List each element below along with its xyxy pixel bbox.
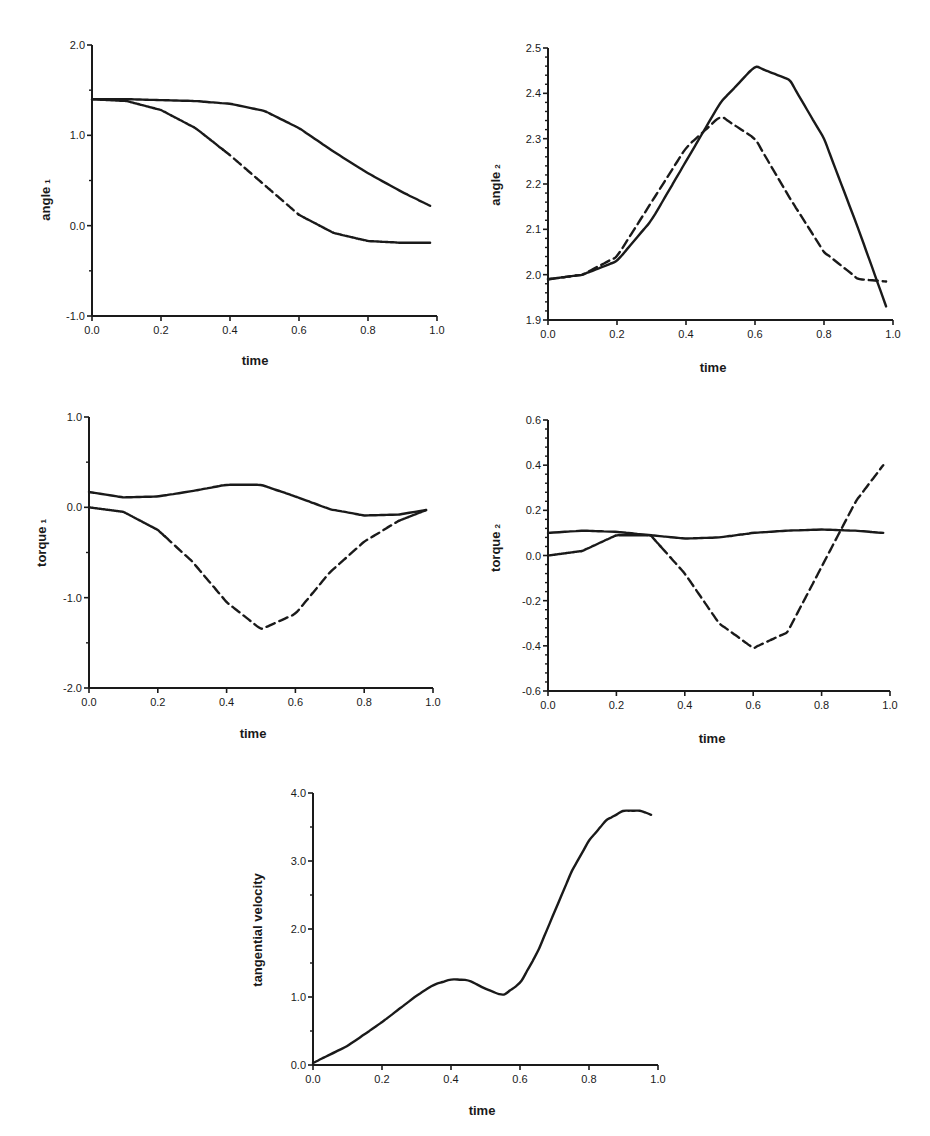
- x-tick-label: 0.4: [222, 324, 237, 336]
- x-tick-label: 1.0: [650, 1073, 665, 1085]
- y-tick-label: -0.4: [522, 640, 541, 652]
- line-solid: [548, 67, 886, 307]
- x-axis-label: time: [240, 726, 267, 741]
- x-tick-label: 1.0: [885, 328, 900, 340]
- x-tick-label: 0.8: [360, 324, 375, 336]
- x-tick-label: 0.6: [288, 696, 303, 708]
- x-tick-label: 1.0: [425, 696, 440, 708]
- series-2: [89, 507, 426, 629]
- x-tick-label: 0.6: [747, 328, 762, 340]
- y-tick-label: 2.3: [526, 133, 541, 145]
- axes: -1.00.01.02.00.00.20.40.60.81.0: [66, 39, 445, 336]
- x-tick-label: 0.2: [609, 328, 624, 340]
- x-tick-label: 0.8: [581, 1073, 596, 1085]
- chart-angle1-plot: angle1 time -1.00.01.02.00.00.20.40.60.8…: [0, 0, 460, 380]
- line-solid: [548, 530, 883, 539]
- series-1: [548, 530, 883, 539]
- y-tick-label: 2.5: [526, 42, 541, 54]
- y-tick-label: -1.0: [63, 592, 82, 604]
- x-tick-label: 0.4: [677, 699, 692, 711]
- x-tick-label: 1.0: [882, 699, 897, 711]
- axes: 0.01.02.03.04.00.00.20.40.60.81.0: [291, 787, 666, 1085]
- x-tick-label: 0.2: [153, 324, 168, 336]
- chart-torque1-plot: torque1 time -2.0-1.00.01.00.00.20.40.60…: [0, 380, 460, 760]
- chart-tangential-velocity-plot: tangential velocity time 0.01.02.03.04.0…: [230, 750, 690, 1136]
- y-tick-label: 0.0: [291, 1059, 306, 1071]
- chart-torque1: torque1 time -2.0-1.00.01.00.00.20.40.60…: [0, 380, 460, 760]
- line-dashed-segment: [165, 521, 399, 629]
- line-solid-segment: [548, 535, 661, 555]
- y-axis-label: angle2: [488, 164, 503, 206]
- y-axis-label: angle1: [38, 179, 53, 221]
- x-tick-label: 0.4: [443, 1073, 458, 1085]
- x-tick-label: 0.6: [512, 1073, 527, 1085]
- x-tick-label: 0.0: [540, 328, 555, 340]
- line-dashed-segment: [661, 465, 883, 648]
- line-solid: [313, 811, 651, 1063]
- y-tick-label: 0.0: [526, 550, 541, 562]
- x-tick-label: 0.6: [291, 324, 306, 336]
- y-tick-label: 2.1: [526, 223, 541, 235]
- line-solid: [89, 485, 426, 516]
- y-tick-label: 2.0: [70, 39, 85, 51]
- x-axis-label: time: [469, 1103, 496, 1118]
- y-tick-label: 0.2: [526, 504, 541, 516]
- y-tick-label: 0.4: [526, 459, 541, 471]
- x-tick-label: 0.6: [746, 699, 761, 711]
- line-dashed: [548, 117, 886, 281]
- x-axis-label: time: [242, 353, 269, 368]
- x-axis-label: time: [699, 731, 726, 746]
- y-tick-label: -0.6: [522, 685, 541, 697]
- y-tick-label: 1.0: [70, 129, 85, 141]
- x-tick-label: 0.8: [816, 328, 831, 340]
- y-tick-label: -0.2: [522, 595, 541, 607]
- y-tick-label: 0.0: [67, 501, 82, 513]
- y-tick-label: 1.0: [67, 411, 82, 423]
- y-tick-label: 3.0: [291, 855, 306, 867]
- series-1: [92, 99, 430, 206]
- y-tick-label: -1.0: [66, 310, 85, 322]
- x-tick-label: 0.4: [678, 328, 693, 340]
- y-tick-label: 2.4: [526, 87, 541, 99]
- x-tick-label: 0.2: [374, 1073, 389, 1085]
- series-2: [92, 99, 430, 243]
- x-tick-label: 0.0: [81, 696, 96, 708]
- series-1: [548, 67, 886, 307]
- axes: -2.0-1.00.01.00.00.20.40.60.81.0: [63, 411, 441, 708]
- y-axis-label: tangential velocity: [250, 873, 265, 987]
- chart-angle2-plot: angle2 time 1.92.02.12.22.32.42.50.00.20…: [470, 0, 930, 380]
- chart-angle2: angle2 time 1.92.02.12.22.32.42.50.00.20…: [470, 0, 930, 380]
- y-tick-label: 2.2: [526, 178, 541, 190]
- chart-torque2-plot: torque2 time -0.6-0.4-0.20.00.20.40.60.0…: [470, 380, 930, 760]
- line-solid-segment: [89, 507, 165, 536]
- x-tick-label: 0.8: [814, 699, 829, 711]
- series-2: [548, 117, 886, 281]
- line-solid: [92, 99, 430, 206]
- line-dashed-segment: [223, 150, 299, 215]
- x-tick-label: 0.2: [609, 699, 624, 711]
- y-tick-label: 1.9: [526, 314, 541, 326]
- y-tick-label: 0.0: [70, 220, 85, 232]
- x-tick-label: 0.4: [219, 696, 234, 708]
- x-tick-label: 0.0: [540, 699, 555, 711]
- y-tick-label: -2.0: [63, 682, 82, 694]
- x-axis-label: time: [700, 360, 727, 375]
- y-axis-label: torque1: [34, 519, 49, 567]
- series-1: [313, 811, 651, 1063]
- x-tick-label: 0.0: [305, 1073, 320, 1085]
- y-tick-label: 2.0: [526, 269, 541, 281]
- y-tick-label: 1.0: [291, 991, 306, 1003]
- x-tick-label: 0.8: [357, 696, 372, 708]
- axes: -0.6-0.4-0.20.00.20.40.60.00.20.40.60.81…: [522, 414, 898, 711]
- y-tick-label: 0.6: [526, 414, 541, 426]
- x-tick-label: 0.2: [150, 696, 165, 708]
- line-solid-segment: [92, 99, 223, 150]
- chart-tangential-velocity: tangential velocity time 0.01.02.03.04.0…: [230, 750, 690, 1136]
- y-axis-label: torque2: [488, 524, 503, 572]
- series-1: [89, 485, 426, 516]
- x-tick-label: 0.0: [84, 324, 99, 336]
- y-tick-label: 4.0: [291, 787, 306, 799]
- x-tick-label: 1.0: [429, 324, 444, 336]
- chart-torque2: torque2 time -0.6-0.4-0.20.00.20.40.60.0…: [470, 380, 930, 760]
- chart-angle1: angle1 time -1.00.01.02.00.00.20.40.60.8…: [0, 0, 460, 380]
